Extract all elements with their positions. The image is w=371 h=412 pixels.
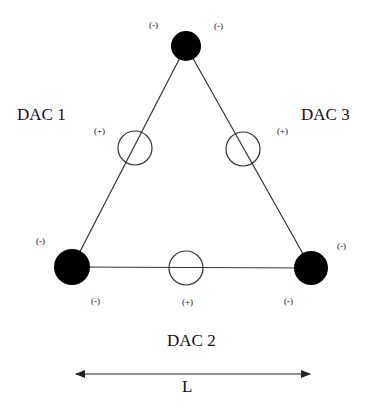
sign-top-right: (-) (214, 22, 223, 31)
filled-node-top (171, 31, 201, 61)
length-label: L (182, 378, 192, 395)
open-circle-left (118, 131, 152, 165)
open-circle-right (226, 132, 260, 166)
sign-bottom-right-upper: (-) (337, 242, 346, 251)
edge-dac1 (72, 46, 186, 267)
sign-bottom-left-lower: (-) (91, 297, 100, 306)
sign-top-left: (-) (149, 21, 158, 30)
dac3-label: DAC 3 (301, 106, 350, 123)
diagram-graphics (0, 0, 371, 412)
dac-diagram: DAC 1 DAC 3 DAC 2 L (-) (-) (+) (+) (-) … (0, 0, 371, 412)
dac2-label: DAC 2 (167, 332, 216, 349)
sign-bottom-left-upper: (-) (36, 237, 45, 246)
sign-bottom-right-lower: (-) (284, 297, 293, 306)
sign-right-plus: (+) (277, 127, 288, 136)
dac1-label: DAC 1 (17, 106, 66, 123)
edge-dac3 (186, 46, 311, 268)
sign-bottom-plus: (+) (182, 298, 193, 307)
filled-node-bottom-left (54, 249, 90, 285)
filled-node-bottom-right (294, 251, 328, 285)
edge-dac2 (72, 267, 311, 268)
sign-left-plus: (+) (94, 127, 105, 136)
